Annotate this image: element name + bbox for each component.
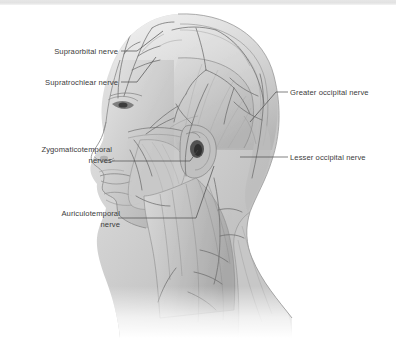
- anatomical-figure: Supraorbital nerve Supratrochlear nerve …: [0, 0, 396, 338]
- label-supraorbital-nerve: Supraorbital nerve: [54, 47, 118, 58]
- label-auriculotemporal-nerve: Auriculotemporal nerve: [61, 209, 120, 230]
- label-zygomaticotemporal-nerves: Zygomaticotemporal nerves: [41, 145, 112, 166]
- label-greater-occipital-nerve: Greater occipital nerve: [290, 88, 369, 99]
- label-lesser-occipital-nerve: Lesser occipital nerve: [290, 153, 366, 164]
- label-supratrochlear-nerve: Supratrochlear nerve: [45, 78, 118, 89]
